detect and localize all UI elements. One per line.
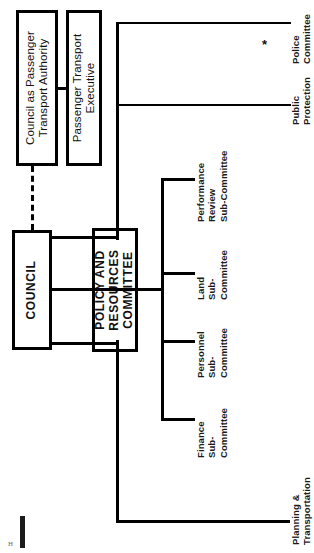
organisation-chart: Council as Passenger Transport Authority… <box>0 0 314 553</box>
branch-land-sub-committee <box>161 272 195 275</box>
leaf-label: Personnel Sub- Committee <box>195 328 229 378</box>
connector-council-top <box>50 236 118 239</box>
branch-finance-sub-committee <box>161 418 195 421</box>
footnote-asterisk-marker: * <box>262 38 267 51</box>
leaf-label: Police Committee <box>290 14 313 64</box>
branch-public-protection-committee <box>116 104 291 106</box>
main-trunk-vertical <box>116 22 119 232</box>
leaf-label: Land Sub- Committee <box>195 250 229 300</box>
node-council-as-passenger-transport-authority[interactable]: Council as Passenger Transport Authority <box>16 10 58 166</box>
node-council[interactable]: COUNCIL <box>12 230 52 350</box>
node-passenger-transport-executive[interactable]: Passenger Transport Executive <box>66 10 102 166</box>
branch-police-committee <box>116 22 291 24</box>
node-label: Passenger Transport Executive <box>71 34 98 143</box>
branch-personnel-sub-committee <box>161 340 195 343</box>
connector-council-top-drop <box>116 228 119 240</box>
leaf-label: Performance Review Sub-Committee <box>195 151 229 223</box>
branch-planning-transportation-committee <box>116 520 290 523</box>
connector-dashed-pta-to-council <box>31 166 34 230</box>
node-label: COUNCIL <box>25 261 39 320</box>
connector-council-middle <box>50 288 162 291</box>
leaf-label: Planning & Transportation Committee <box>290 477 314 545</box>
leaf-label: Finance Sub- Committee <box>195 408 229 458</box>
leaf-label: Public Protection Committee <box>290 75 314 125</box>
connector-council-bottom-drop <box>116 340 119 354</box>
node-label: Council as Passenger Transport Authority <box>24 31 51 145</box>
scan-scale-bar <box>20 516 25 548</box>
lower-trunk-vertical <box>116 348 119 522</box>
subcommittee-spine <box>161 178 164 420</box>
branch-performance-review-sub-committee <box>161 178 195 181</box>
connector-council-bottom <box>50 342 118 345</box>
scan-edge-mark: H <box>8 540 13 548</box>
